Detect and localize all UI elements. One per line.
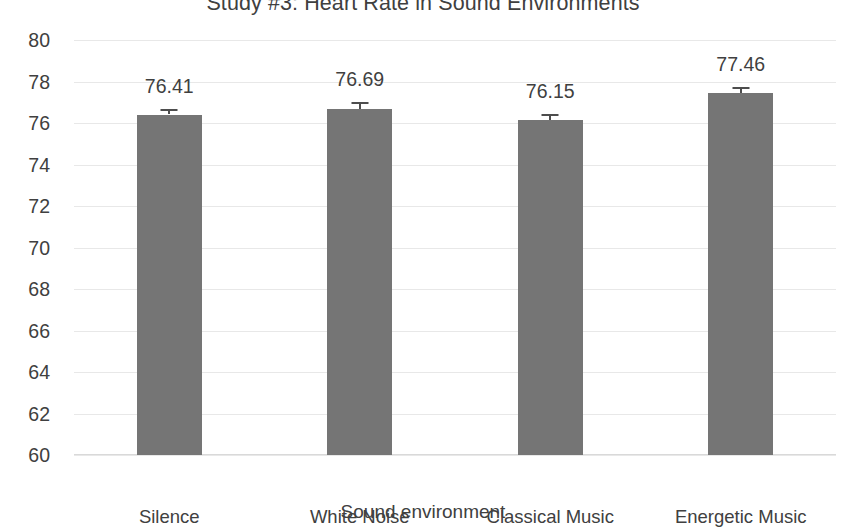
error-bar-cap [161, 109, 178, 111]
bar-value-label: 76.15 [526, 80, 575, 103]
bar[interactable] [708, 93, 773, 455]
y-axis-tick-label: 66 [0, 319, 50, 342]
error-bar-cap [351, 102, 368, 104]
gridline [74, 40, 836, 41]
x-axis-tick-label: White Noise [310, 506, 410, 527]
y-axis-tick-label: 72 [0, 195, 50, 218]
chart-title: Study #3: Heart Rate in Sound Environmen… [0, 0, 846, 16]
x-axis-tick-label: Energetic Music [675, 506, 807, 527]
error-bar-cap [542, 114, 559, 116]
error-bar-cap [732, 87, 749, 89]
bar[interactable] [137, 115, 202, 456]
x-axis-tick-label: Classical Music [487, 506, 614, 527]
y-axis-tick-label: 62 [0, 402, 50, 425]
x-axis-tick-label: Silence [139, 506, 200, 527]
y-axis-tick-label: 74 [0, 153, 50, 176]
bar-chart: Study #3: Heart Rate in Sound Environmen… [0, 0, 846, 527]
bar-value-label: 76.41 [145, 75, 194, 98]
bar[interactable] [518, 120, 583, 455]
y-axis-tick-label: 70 [0, 236, 50, 259]
bar-value-label: 76.69 [335, 68, 384, 91]
bar[interactable] [327, 109, 392, 455]
gridline [74, 455, 836, 456]
y-axis-tick-label: 78 [0, 70, 50, 93]
plot-area: 807876747270686664626076.41Silence76.69W… [74, 40, 836, 455]
y-axis-tick-label: 76 [0, 112, 50, 135]
y-axis-tick-label: 80 [0, 29, 50, 52]
y-axis-tick-label: 60 [0, 444, 50, 467]
bar-value-label: 77.46 [716, 53, 765, 76]
y-axis-tick-label: 68 [0, 278, 50, 301]
y-axis-tick-label: 64 [0, 361, 50, 384]
